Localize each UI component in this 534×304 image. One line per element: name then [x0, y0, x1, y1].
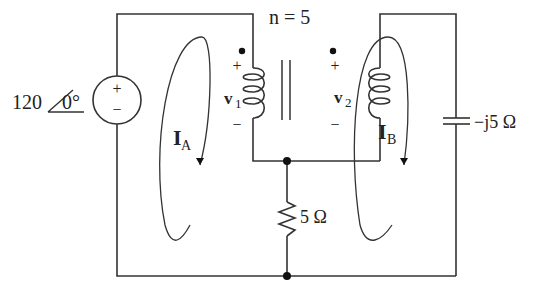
resistor [279, 202, 295, 236]
secondary-minus: − [330, 116, 339, 133]
mesh-b-arrow-icon [400, 158, 408, 165]
wire-secondary-top [380, 14, 456, 118]
mesh-b-label: I [378, 119, 387, 144]
mesh-a-arrow-icon [196, 158, 204, 165]
capacitor-label: −j5 Ω [474, 112, 516, 132]
primary-dot [239, 48, 245, 54]
primary-minus: − [232, 116, 241, 133]
resistor-label: 5 Ω [300, 207, 327, 227]
wire-primary-lower [253, 118, 380, 161]
mesh-b-sub: B [387, 132, 396, 147]
node-center [283, 157, 291, 165]
mesh-a-sub: A [181, 138, 192, 153]
primary-voltage-label: v [224, 89, 233, 108]
primary-voltage-sub: 1 [235, 96, 242, 111]
secondary-coil [369, 68, 390, 118]
secondary-dot [330, 48, 336, 54]
secondary-voltage-sub: 2 [345, 95, 352, 110]
circuit-diagram: + − 120 0° + − v 1 n = 5 + − v 2 5 Ω −j5… [0, 0, 534, 304]
source-plus: + [112, 80, 121, 97]
secondary-plus: + [330, 57, 339, 74]
source-angle: 0° [62, 91, 80, 113]
primary-coil [243, 68, 264, 118]
source-minus: − [112, 101, 121, 118]
source-magnitude: 120 [12, 91, 42, 113]
secondary-voltage-label: v [334, 88, 343, 107]
primary-plus: + [232, 57, 241, 74]
node-bottom [283, 272, 291, 280]
turns-ratio-label: n = 5 [269, 6, 310, 28]
